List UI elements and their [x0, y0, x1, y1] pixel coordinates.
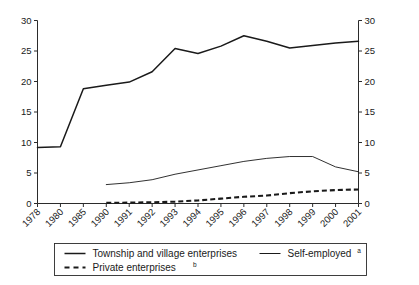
left-axis-tick-label: 5	[26, 167, 31, 178]
right-axis-tick-label: 5	[365, 167, 370, 178]
legend-label-2: Private enterprises	[93, 262, 176, 273]
chart-container: 051015202530 051015202530 19781980198519…	[0, 0, 419, 285]
left-axis-tick-label: 30	[21, 15, 32, 26]
right-axis-tick-label: 15	[365, 106, 376, 117]
right-axis-tick-label: 30	[365, 15, 376, 26]
right-axis-tick-label: 0	[365, 198, 370, 209]
legend-label-1: Self-employed	[288, 248, 352, 259]
left-axis-tick-label: 15	[21, 106, 32, 117]
right-axis-tick-label: 10	[365, 137, 376, 148]
right-axis-tick-label: 20	[365, 76, 376, 87]
legend-superscript-2: b	[193, 261, 197, 268]
left-axis-tick-label: 25	[21, 45, 32, 56]
left-axis-tick-label: 20	[21, 76, 32, 87]
left-axis-tick-label: 0	[26, 198, 31, 209]
legend-superscript-1: a	[357, 247, 361, 254]
left-axis-tick-label: 10	[21, 137, 32, 148]
line-chart: 051015202530 051015202530 19781980198519…	[0, 0, 419, 285]
legend-label-0: Township and village enterprises	[93, 248, 238, 259]
right-axis-tick-label: 25	[365, 45, 376, 56]
